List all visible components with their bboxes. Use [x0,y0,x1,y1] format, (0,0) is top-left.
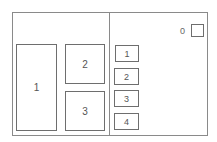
right-button-3[interactable]: 3 [114,90,139,107]
left-box-1-label: 1 [34,82,40,93]
counter-label: 0 [180,26,185,36]
left-box-2[interactable]: 2 [65,44,105,84]
left-box-2-label: 2 [82,59,88,70]
right-button-1[interactable]: 1 [115,45,139,62]
left-box-1[interactable]: 1 [16,44,57,131]
right-button-4-label: 4 [124,117,129,127]
left-box-3-label: 3 [82,106,88,117]
right-button-2-label: 2 [124,72,129,82]
right-button-4[interactable]: 4 [114,113,139,130]
checkbox[interactable] [191,24,204,37]
right-button-2[interactable]: 2 [114,68,139,85]
right-button-3-label: 3 [124,94,129,104]
panel-divider [109,12,110,136]
right-button-1-label: 1 [124,49,129,59]
left-box-3[interactable]: 3 [65,91,105,131]
